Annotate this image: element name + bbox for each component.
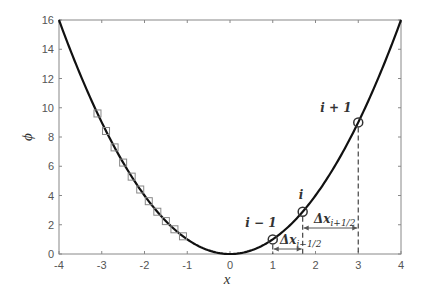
- y-tick-label: 14: [42, 43, 54, 55]
- y-axis-label: ϕ: [19, 133, 35, 141]
- y-tick-label: 16: [42, 14, 54, 26]
- y-tick-label: 6: [48, 160, 54, 172]
- x-tick-label: -3: [97, 259, 107, 271]
- dx-next-sub: i+1/2: [330, 218, 355, 228]
- x-tick-label: -4: [54, 259, 64, 271]
- y-tick-label: 2: [48, 219, 54, 231]
- square-markers: [94, 110, 187, 240]
- node-label-prev: i − 1: [245, 216, 276, 230]
- dx-prev-sub: i−1/2: [296, 239, 321, 249]
- x-tick-label: 1: [270, 259, 276, 271]
- chart: -4-3-2-1012340246810121416 x ϕ i + 1 i i…: [0, 0, 425, 296]
- y-tick-label: 12: [42, 73, 54, 85]
- y-tick-label: 0: [48, 248, 54, 260]
- axis-ticks: -4-3-2-1012340246810121416: [42, 14, 404, 271]
- y-tick-label: 10: [42, 102, 54, 114]
- y-tick-label: 4: [48, 190, 54, 202]
- dx-prev-main: Δx: [279, 233, 297, 247]
- dx-next-label: Δxi+1/2: [313, 212, 356, 228]
- x-tick-label: 0: [227, 259, 233, 271]
- x-axis-label: x: [223, 271, 231, 287]
- x-tick-label: 2: [312, 259, 318, 271]
- x-tick-label: 4: [398, 259, 404, 271]
- x-tick-label: 3: [355, 259, 361, 271]
- node-label-current: i: [299, 188, 304, 202]
- y-tick-label: 8: [48, 131, 54, 143]
- dx-prev-label: Δxi−1/2: [279, 233, 322, 249]
- x-tick-label: -2: [140, 259, 150, 271]
- arrow-head-left-icon: [304, 226, 309, 231]
- node-label-next: i + 1: [320, 101, 351, 115]
- x-tick-label: -1: [182, 259, 192, 271]
- dx-next-main: Δx: [313, 212, 331, 226]
- arrow-head-left-icon: [274, 247, 279, 252]
